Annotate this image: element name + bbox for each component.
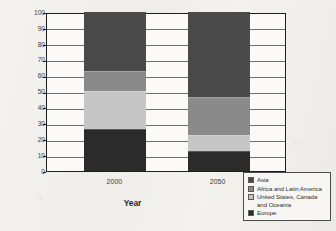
legend-item[interactable]: United States, Canada and Oceania (248, 193, 327, 207)
legend-label: Africa and Latin America (257, 185, 322, 192)
x-tick-label: 2000 (84, 178, 144, 185)
legend-label: Asia (257, 176, 269, 183)
y-tick-label: 50 (25, 89, 45, 96)
x-tick-label: 2050 (188, 178, 248, 185)
y-tick-mark (43, 29, 46, 30)
bar-segment[interactable] (188, 97, 250, 136)
y-tick-mark (43, 93, 46, 94)
y-tick-mark (43, 124, 46, 125)
y-tick-label: 80 (25, 42, 45, 49)
bar-segment[interactable] (188, 151, 250, 171)
legend-item[interactable]: Africa and Latin America (248, 185, 327, 192)
bar-segment[interactable] (188, 12, 250, 98)
y-tick-mark (43, 172, 46, 173)
y-tick-label: 10 (25, 153, 45, 160)
y-tick-mark (43, 77, 46, 78)
legend-swatch-icon (248, 177, 254, 183)
bar-segment[interactable] (84, 71, 146, 91)
y-tick-mark (43, 13, 46, 14)
y-tick-label: 90 (25, 26, 45, 33)
bar-segment[interactable] (84, 129, 146, 171)
plot-area (46, 13, 286, 172)
bar-2050[interactable] (188, 12, 250, 171)
chart-legend: AsiaAfrica and Latin AmericaUnited State… (243, 172, 331, 221)
bar-segment[interactable] (84, 12, 146, 72)
legend-item[interactable]: Asia (248, 176, 327, 183)
y-tick-mark (43, 45, 46, 46)
y-tick-mark (43, 156, 46, 157)
legend-label: Europe (257, 209, 276, 216)
legend-swatch-icon (248, 210, 254, 216)
y-tick-label: 60 (25, 73, 45, 80)
y-tick-label: 70 (25, 57, 45, 64)
bar-segment[interactable] (188, 135, 250, 152)
y-tick-mark (43, 140, 46, 141)
bar-segment[interactable] (84, 91, 146, 130)
y-tick-label: 0 (25, 169, 45, 176)
chart-page: Percent of global economic activity 0102… (0, 0, 336, 231)
legend-label: United States, Canada and Oceania (257, 193, 327, 207)
y-tick-label: 100 (25, 10, 45, 17)
y-tick-label: 20 (25, 137, 45, 144)
y-tick-label: 30 (25, 121, 45, 128)
y-tick-label: 40 (25, 105, 45, 112)
legend-swatch-icon (248, 194, 254, 200)
legend-item[interactable]: Europe (248, 209, 327, 216)
y-tick-mark (43, 61, 46, 62)
bar-2000[interactable] (84, 12, 146, 171)
x-axis-title: Year (40, 198, 225, 208)
y-tick-mark (43, 108, 46, 109)
legend-swatch-icon (248, 186, 254, 192)
